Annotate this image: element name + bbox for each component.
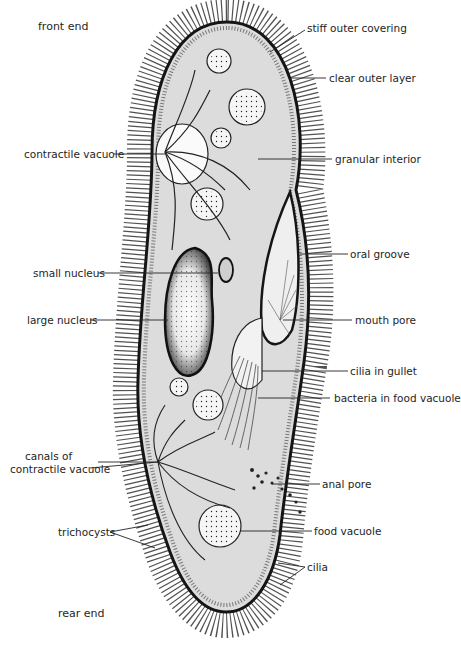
label-rear-end: rear end (58, 608, 105, 620)
label-front-end: front end (38, 21, 88, 33)
label-granular-interior: granular interior (335, 153, 421, 165)
label-anal-pore: anal pore (322, 478, 371, 490)
label-oral-groove: oral groove (350, 248, 410, 260)
small-nucleus-shape (219, 258, 233, 282)
label-food-vacuole: food vacuole (314, 525, 381, 537)
label-trichocysts: trichocysts (58, 526, 115, 538)
label-contractile-vacuole: contractile vacuole (24, 148, 124, 160)
label-large-nucleus: large nucleus (27, 314, 98, 326)
label-canals-of: canals of (25, 450, 72, 462)
label-small-nucleus: small nucleus (33, 267, 105, 279)
label-stiff-outer-covering: stiff outer covering (307, 22, 407, 34)
label-cilia: cilia (307, 561, 328, 573)
label-cilia-in-gullet: cilia in gullet (350, 365, 417, 377)
label-bacteria-in-food-vacuole: bacteria in food vacuole (334, 392, 461, 404)
label-mouth-pore: mouth pore (355, 314, 416, 326)
label-clear-outer-layer: clear outer layer (329, 72, 416, 84)
label-contractile-vacuole-canals: contractile vacuole (10, 463, 110, 475)
